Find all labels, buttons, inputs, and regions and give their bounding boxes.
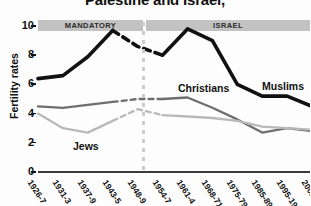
- series-line-jews: [163, 115, 311, 130]
- series-line-christians: [38, 102, 113, 108]
- series-line-muslims: [113, 30, 163, 55]
- series-label-muslims: Muslims: [262, 80, 304, 92]
- series-line-jews: [38, 114, 113, 133]
- fertility-rates-chart: Palestine and Israel, Fertility rates 02…: [0, 0, 310, 206]
- series-line-jews: [113, 109, 163, 121]
- series-label-christians: Christians: [178, 82, 229, 94]
- series-line-christians: [113, 99, 163, 102]
- chart-plot-area: [0, 0, 310, 206]
- series-line-muslims: [38, 30, 113, 78]
- series-line-muslims: [163, 29, 311, 106]
- series-label-jews: Jews: [73, 140, 99, 152]
